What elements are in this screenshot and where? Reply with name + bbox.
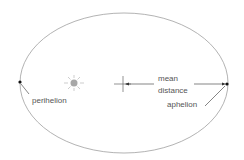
distance-label: distance [158,86,188,95]
perihelion-point [18,80,21,83]
aphelion-point [225,82,228,85]
sun-icon [64,75,84,91]
aphelion-label: aphelion [167,100,197,109]
mean-label: mean [158,74,178,83]
perihelion-label: perihelion [32,96,67,105]
orbit-ellipse [20,13,228,153]
orbit-diagram: perihelion mean distance aphelion [0,0,244,160]
aphelion-leader [205,86,225,106]
perihelion-leader [21,84,29,94]
